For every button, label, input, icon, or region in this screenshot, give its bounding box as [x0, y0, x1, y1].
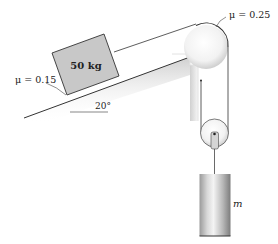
support-post	[190, 65, 198, 121]
moving-pulley-axle	[213, 133, 216, 136]
fixed-pulley: μ = 0.25	[184, 9, 270, 69]
block: 50 kg	[52, 34, 119, 95]
pulley-incline-diagram: 50 kg μ = 0.25 m μ = 0.15 20°	[0, 0, 278, 244]
hanging-mass: m	[200, 174, 243, 236]
incline-angle-label: 20°	[95, 101, 111, 111]
moving-pulley	[201, 119, 229, 174]
hanging-cylinder	[200, 174, 231, 236]
fixed-pulley-friction-label: μ = 0.25	[229, 9, 270, 20]
hanging-mass-label: m	[233, 198, 242, 209]
rope-anchor-point	[200, 80, 202, 82]
fixed-pulley-wheel	[184, 25, 228, 69]
incline-friction-label: μ = 0.15	[15, 74, 56, 85]
μ-leader	[216, 17, 226, 27]
cable-block-to-pulley	[114, 24, 196, 52]
incline-friction-annotation: μ = 0.15	[15, 74, 66, 95]
block-mass-label: 50 kg	[70, 60, 101, 71]
